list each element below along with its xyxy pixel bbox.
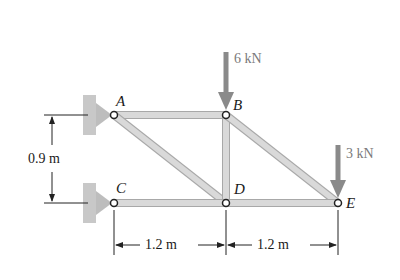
joint-label-B: B xyxy=(233,98,242,113)
load-label-B: 6 kN xyxy=(234,52,262,66)
joint-A xyxy=(111,112,118,119)
joint-label-D: D xyxy=(234,182,245,197)
truss-diagram: A B C D E 6 kN 3 kN 0.9 m 1.2 m 1.2 m xyxy=(0,0,400,280)
load-label-E: 3 kN xyxy=(346,147,374,161)
load-arrow-E xyxy=(330,145,346,198)
load-arrow-B xyxy=(218,52,234,110)
truss-members xyxy=(114,115,338,203)
joint-label-E: E xyxy=(346,196,355,211)
joint-C xyxy=(111,200,118,207)
dimension-label-CD: 1.2 m xyxy=(144,238,178,252)
dimension-label-vertical: 0.9 m xyxy=(27,152,61,166)
joint-B xyxy=(223,112,230,119)
dimension-label-DE: 1.2 m xyxy=(256,238,290,252)
joint-E xyxy=(335,200,342,207)
joint-D xyxy=(223,200,230,207)
member-AD xyxy=(114,115,226,203)
joint-label-C: C xyxy=(116,181,126,196)
truss-canvas xyxy=(0,0,400,280)
joint-label-A: A xyxy=(116,94,125,109)
